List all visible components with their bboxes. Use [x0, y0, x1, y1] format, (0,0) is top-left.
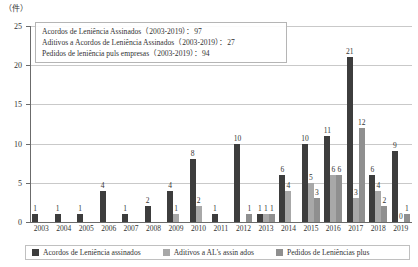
bar-group-2017: 21312 — [345, 26, 367, 222]
legend-item-series0[interactable]: Acordos de Leniência assinados — [32, 248, 141, 257]
y-tick-label-15: 15 — [2, 100, 22, 109]
bar-value-label: 6 — [370, 166, 374, 174]
legend-label: Aditivos a AL's assin ados — [174, 248, 254, 257]
bar-value-label: 1 — [78, 205, 82, 213]
x-axis-label-2007: 2007 — [120, 224, 142, 233]
legend-item-series1[interactable]: Aditivos a AL's assin ados — [163, 248, 254, 257]
x-axis-label-2019: 2019 — [390, 224, 412, 233]
bar-value-label: 1 — [123, 205, 127, 213]
y-tick-label-20: 20 — [2, 61, 22, 70]
legend-item-series2[interactable]: Pedidos de Leniências plus — [276, 248, 369, 257]
legend-swatch-icon — [32, 249, 39, 256]
bar-group-2018: 642 — [367, 26, 389, 222]
y-tick-mark-10 — [26, 144, 30, 145]
chart-root: （件） 111412418211011116410531166213126429… — [0, 0, 418, 267]
bar-rect[interactable] — [314, 198, 320, 222]
bar-value-label: 3 — [315, 189, 319, 197]
bar-value-label: 1 — [213, 205, 217, 213]
bar-rect[interactable] — [336, 175, 342, 222]
x-axis-label-2003: 2003 — [30, 224, 52, 233]
bar-2017-series2[interactable]: 12 — [359, 26, 365, 222]
bar-2016-series2[interactable]: 6 — [336, 26, 342, 222]
bar-value-label: 1 — [33, 205, 37, 213]
bar-2019-series2[interactable]: 1 — [404, 26, 410, 222]
y-tick-mark-15 — [26, 104, 30, 105]
x-axis-line — [30, 222, 412, 223]
bar-value-label: 5 — [309, 174, 313, 182]
bar-2018-series2[interactable]: 2 — [381, 26, 387, 222]
bar-value-label: 1 — [258, 205, 262, 213]
legend-label: Acordos de Leniência assinados — [43, 248, 141, 257]
bar-value-label: 6 — [337, 166, 341, 174]
y-tick-label-25: 25 — [2, 22, 22, 31]
bar-value-label: 1 — [264, 205, 268, 213]
annotation-line-3: Pedidos de leniência puls empresas（2003-… — [42, 48, 281, 59]
y-axis-line — [30, 26, 31, 223]
bar-value-label: 4 — [101, 182, 105, 190]
y-tick-label-0: 0 — [2, 218, 22, 227]
x-axis-label-2010: 2010 — [187, 224, 209, 233]
x-axis-label-2017: 2017 — [345, 224, 367, 233]
chart-legend: Acordos de Leniência assinadosAditivos a… — [25, 245, 410, 260]
bar-group-2019: 901 — [390, 26, 412, 222]
bar-value-label: 1 — [56, 205, 60, 213]
x-axis-label-2012: 2012 — [232, 224, 254, 233]
x-axis-label-2013: 2013 — [255, 224, 277, 233]
bar-value-label: 4 — [376, 182, 380, 190]
bar-2014-series2[interactable] — [291, 26, 297, 222]
bar-rect[interactable] — [404, 214, 410, 222]
bar-rect[interactable] — [359, 128, 365, 222]
y-tick-label-10: 10 — [2, 140, 22, 149]
bar-value-label: 3 — [354, 189, 358, 197]
y-tick-mark-0 — [26, 222, 30, 223]
bar-rect[interactable] — [381, 206, 387, 222]
y-tick-mark-20 — [26, 65, 30, 66]
legend-label: Pedidos de Leniências plus — [287, 248, 369, 257]
y-tick-mark-25 — [26, 26, 30, 27]
x-axis-label-2018: 2018 — [367, 224, 389, 233]
legend-swatch-icon — [163, 249, 170, 256]
bar-value-label: 8 — [191, 150, 195, 158]
x-axis-label-2014: 2014 — [277, 224, 299, 233]
bar-value-label: 12 — [358, 119, 366, 127]
summary-annotation-box: Acordos de Leniência Assinados（2003-2019… — [35, 22, 287, 63]
y-tick-label-5: 5 — [2, 179, 22, 188]
x-axis-label-2004: 2004 — [52, 224, 74, 233]
x-axis-label-2005: 2005 — [75, 224, 97, 233]
y-axis-unit-label: （件） — [4, 2, 28, 13]
bar-group-2015: 1053 — [300, 26, 322, 222]
bar-value-label: 2 — [382, 197, 386, 205]
bar-value-label: 2 — [146, 197, 150, 205]
bar-value-label: 1 — [270, 205, 274, 213]
x-axis-label-2006: 2006 — [97, 224, 119, 233]
bar-value-label: 6 — [281, 166, 285, 174]
bar-value-label: 6 — [331, 166, 335, 174]
bar-value-label: 1 — [248, 205, 252, 213]
bar-value-label: 9 — [393, 142, 397, 150]
x-axis-label-2009: 2009 — [165, 224, 187, 233]
annotation-line-1: Acordos de Leniência Assinados（2003-2019… — [42, 26, 281, 37]
y-tick-mark-5 — [26, 183, 30, 184]
x-axis-label-2011: 2011 — [210, 224, 232, 233]
bar-value-label: 4 — [168, 182, 172, 190]
bar-2015-series2[interactable]: 3 — [314, 26, 320, 222]
bar-value-label: 1 — [405, 205, 409, 213]
bar-value-label: 0 — [399, 213, 403, 221]
legend-swatch-icon — [276, 249, 283, 256]
annotation-line-2: Aditivos a Acordos de Leniência Assinado… — [42, 37, 281, 48]
bar-rect[interactable] — [246, 214, 252, 222]
x-axis-label-2008: 2008 — [142, 224, 164, 233]
bar-value-label: 4 — [287, 182, 291, 190]
bar-group-2016: 1166 — [322, 26, 344, 222]
x-axis-label-2016: 2016 — [322, 224, 344, 233]
x-axis-label-2015: 2015 — [300, 224, 322, 233]
bar-rect[interactable] — [269, 214, 275, 222]
bar-value-label: 2 — [197, 197, 201, 205]
bar-value-label: 1 — [174, 205, 178, 213]
